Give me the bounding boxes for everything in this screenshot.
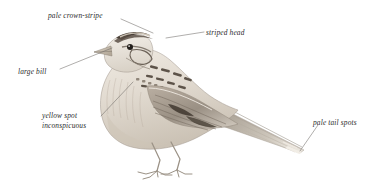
label-large-bill: large bill [18,67,47,76]
leader-pale-crown-stripe [121,19,153,33]
tail [222,110,304,154]
leader-pale-tail-spots [300,125,318,151]
eye [127,44,133,50]
leader-large-bill [60,48,112,69]
feet [138,170,192,179]
bill [94,46,112,56]
bird-illustration [0,0,386,185]
illustration-plate: pale crown-stripe striped head large bil… [0,0,386,185]
label-pale-crown-stripe: pale crown-stripe [48,11,103,20]
label-pale-tail-spots: pale tail spots [313,118,357,127]
label-yellow-spot-inconspicuous: yellow spot inconspicuous [42,111,86,130]
head [94,32,153,72]
leader-striped-head [166,32,204,38]
label-striped-head: striped head [206,28,245,37]
